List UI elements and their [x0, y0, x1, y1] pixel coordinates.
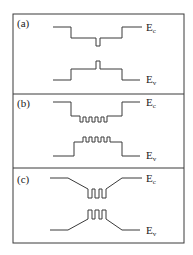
- band-diagram-figure: (a) Ec Ev (b) Ec Ev (c) Ec Ev: [0, 0, 193, 255]
- ec-label-b: Ec: [146, 96, 156, 110]
- panel-label-a: (a): [17, 17, 30, 30]
- panel-label-c: (c): [17, 173, 30, 186]
- valence-band-line-a: [53, 61, 140, 80]
- conduction-band-line-a: [53, 27, 142, 46]
- panel-b: (b) Ec Ev: [17, 96, 157, 163]
- ec-label-c: Ec: [146, 172, 156, 186]
- panel-label-b: (b): [17, 97, 30, 110]
- panel-a: (a) Ec Ev: [17, 17, 157, 87]
- valence-band-line-b: [53, 137, 140, 156]
- conduction-band-line-b: [53, 102, 140, 122]
- ev-label-b: Ev: [146, 149, 157, 163]
- figure-frame: [13, 14, 184, 243]
- band-diagram-svg: (a) Ec Ev (b) Ec Ev (c) Ec Ev: [0, 0, 193, 255]
- ev-label-a: Ev: [146, 73, 157, 87]
- conduction-band-line-c: [50, 178, 142, 198]
- ec-label-a: Ec: [146, 21, 156, 35]
- ev-label-c: Ev: [146, 224, 157, 238]
- valence-band-line-c: [50, 210, 140, 230]
- panel-c: (c) Ec Ev: [17, 172, 157, 238]
